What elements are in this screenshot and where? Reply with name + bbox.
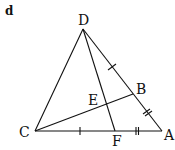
segment-da	[83, 29, 162, 131]
panel-label: d	[5, 4, 14, 18]
geometry-diagram: d D C A B F E	[0, 0, 175, 150]
segment-df	[83, 29, 115, 131]
label-d: D	[78, 12, 89, 28]
label-e: E	[88, 92, 98, 108]
tick-db	[108, 64, 116, 70]
label-a: A	[163, 127, 175, 143]
label-b: B	[136, 81, 146, 97]
label-c: C	[19, 124, 30, 140]
label-f: F	[112, 133, 122, 149]
